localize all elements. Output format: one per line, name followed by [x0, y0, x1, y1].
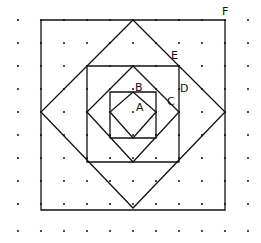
grid-dot — [17, 157, 19, 159]
grid-dot — [86, 203, 88, 205]
grid-dot — [155, 180, 157, 182]
grid-dot — [17, 65, 19, 67]
grid-dot — [86, 42, 88, 44]
grid-dot — [109, 203, 111, 205]
grid-dot — [109, 157, 111, 159]
grid-dot — [63, 180, 65, 182]
grid-dot — [109, 180, 111, 182]
grid-dot — [17, 42, 19, 44]
grid-dot — [178, 180, 180, 182]
grid-dot — [155, 157, 157, 159]
grid-dot — [201, 157, 203, 159]
label-a: A — [136, 102, 144, 113]
grid-dot — [132, 230, 134, 232]
grid-dot — [201, 180, 203, 182]
grid-dot — [178, 230, 180, 232]
grid-dot — [132, 157, 134, 159]
grid-dot — [224, 230, 226, 232]
grid-dot — [201, 230, 203, 232]
grid-dot — [155, 203, 157, 205]
grid-dot — [63, 111, 65, 113]
square-D — [87, 66, 179, 162]
grid-dot — [247, 65, 249, 67]
dot-grid — [17, 19, 249, 232]
diamond-A — [110, 92, 156, 138]
diagram-canvas — [0, 0, 261, 243]
grid-dot — [247, 157, 249, 159]
grid-dot — [247, 42, 249, 44]
label-d: D — [180, 83, 188, 94]
grid-dot — [247, 111, 249, 113]
grid-dot — [40, 230, 42, 232]
grid-dot — [17, 230, 19, 232]
grid-dot — [155, 230, 157, 232]
grid-dot — [247, 19, 249, 21]
grid-dot — [63, 203, 65, 205]
grid-dot — [201, 42, 203, 44]
label-e: E — [171, 50, 178, 61]
label-c: C — [167, 96, 175, 107]
grid-dot — [201, 65, 203, 67]
grid-dot — [178, 42, 180, 44]
grid-dot — [86, 230, 88, 232]
grid-dot — [178, 203, 180, 205]
grid-dot — [247, 134, 249, 136]
grid-dot — [247, 180, 249, 182]
grid-dot — [132, 203, 134, 205]
grid-dot — [109, 230, 111, 232]
grid-dot — [17, 88, 19, 90]
grid-dot — [17, 111, 19, 113]
grid-dot — [201, 203, 203, 205]
grid-dot — [63, 157, 65, 159]
diamond-C — [87, 66, 179, 162]
grid-dot — [247, 88, 249, 90]
label-b: B — [135, 82, 143, 93]
grid-dot — [17, 19, 19, 21]
grid-dot — [86, 180, 88, 182]
grid-dot — [132, 111, 134, 113]
grid-dot — [63, 42, 65, 44]
grid-dot — [132, 180, 134, 182]
label-f: F — [222, 6, 228, 17]
diamond-E — [41, 20, 225, 208]
grid-dot — [247, 230, 249, 232]
grid-dot — [132, 88, 134, 90]
grid-dot — [63, 65, 65, 67]
square-B — [110, 92, 156, 138]
grid-dot — [247, 203, 249, 205]
grid-dot — [132, 134, 134, 136]
grid-dot — [17, 134, 19, 136]
grid-dot — [132, 42, 134, 44]
grid-dot — [63, 230, 65, 232]
grid-dot — [17, 203, 19, 205]
grid-dot — [201, 111, 203, 113]
grid-dot — [17, 180, 19, 182]
